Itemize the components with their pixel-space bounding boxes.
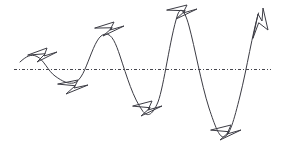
arrowhead-right-icon (167, 5, 197, 19)
wave-diagram-svg (0, 0, 282, 157)
arrowhead-up-icon (253, 8, 268, 38)
arrowhead-right-icon (95, 22, 124, 36)
wave-curve (20, 10, 259, 137)
arrowhead-right-icon (28, 48, 57, 62)
arrowhead-right-icon (58, 80, 88, 94)
figure-canvas (0, 0, 282, 157)
